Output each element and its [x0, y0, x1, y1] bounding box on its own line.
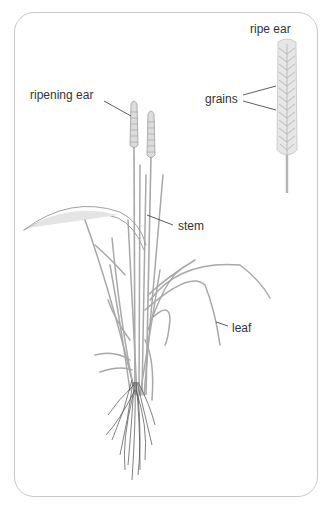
- wheat-plant-illustration: [0, 0, 330, 505]
- roots: [106, 380, 155, 480]
- label-leaf: leaf: [232, 321, 251, 335]
- label-grains: grains: [205, 92, 238, 106]
- ripe-ear: [277, 39, 297, 193]
- stems-and-leaves: [24, 165, 270, 400]
- label-stem: stem: [178, 219, 204, 233]
- label-ripe-ear: ripe ear: [250, 22, 291, 36]
- leader-lines: [104, 86, 276, 326]
- label-ripening-ear: ripening ear: [30, 88, 93, 102]
